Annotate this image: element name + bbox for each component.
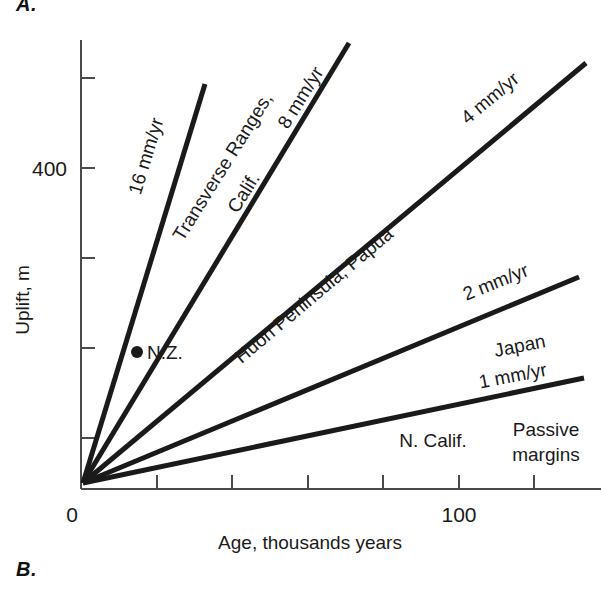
y-tick-label-400: 400 [32,157,67,180]
chart-canvas: 400 0 100 Uplift, m Age, thousands years… [0,0,601,590]
annotation-passive-margins-line1: Passive [513,419,580,440]
panel-b-letter: B. [16,558,37,581]
series-label-16mmyr: 16 mm/yr [124,115,167,197]
uplift-vs-age-chart: 400 0 100 Uplift, m Age, thousands years… [0,0,601,590]
series-label-japan: Japan [492,330,547,360]
series-label-2mmyr: 2 mm/yr [460,259,532,304]
series-label-transverse-ranges-line1: Transverse Ranges, [168,89,276,245]
y-axis [81,40,95,489]
x-tick-label-100: 100 [441,503,476,526]
x-tick-label-0: 0 [66,503,78,526]
series-line-transverse-ranges-8mmyr [83,43,349,483]
series-label-huon-peninsula: Huon Peninsula, Papua [231,223,398,368]
y-axis-title: Uplift, m [12,265,33,335]
data-point-nz [131,346,143,358]
x-axis [81,475,601,489]
annotation-passive-margins-line2: margins [512,444,580,465]
annotation-n-calif: N. Calif. [399,430,467,451]
x-axis-title: Age, thousands years [218,532,402,553]
series-line-japan-1mmyr [83,378,584,483]
series-label-4mmyr: 4 mm/yr [457,67,524,128]
data-point-label-nz: N.Z. [147,342,183,363]
